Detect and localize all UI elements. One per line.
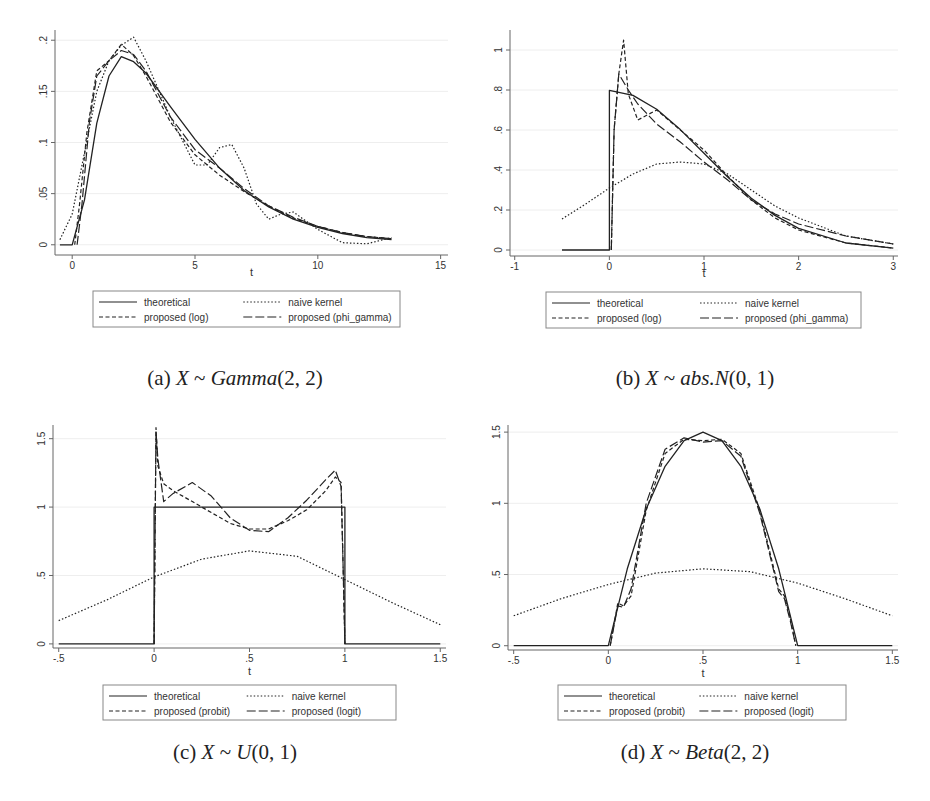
legend: theoreticalnaive kernelproposed (probit)… [558, 685, 846, 720]
legend-label: proposed (probit) [154, 706, 230, 717]
chart-panel-d: 0.511.5-.50.511.5ttheoreticalnaive kerne… [491, 425, 900, 720]
legend-label: proposed (log) [597, 313, 661, 324]
legend-label: theoretical [144, 297, 190, 308]
caption-tilde: ~ [669, 740, 680, 764]
caption-tilde: ~ [664, 366, 675, 390]
caption-a: (a) X ~ Gamma(2, 2) [147, 366, 322, 391]
caption-c: (c) X ~ U(0, 1) [173, 740, 297, 765]
series-theoretical [60, 57, 392, 245]
x-tick-label: 1 [342, 653, 348, 664]
x-tick-label: 5 [192, 260, 198, 271]
y-tick-label: 1 [491, 500, 502, 506]
caption-dist: Gamma [211, 366, 278, 390]
x-tick-label: 0 [151, 653, 157, 664]
y-tick-label: .2 [493, 205, 504, 214]
caption-params: (0, 1) [729, 366, 775, 390]
caption-d: (d) X ~ Beta(2, 2) [621, 740, 769, 765]
y-tick-label: 0 [491, 643, 502, 649]
x-tick-label: 0 [607, 261, 613, 272]
chart-panel-c: 0.511.5-.50.511.5ttheoreticalnaive kerne… [36, 425, 448, 720]
series-proposed-probit- [154, 428, 345, 644]
y-tick-label: .1 [38, 138, 49, 147]
y-tick-label: .15 [38, 84, 49, 98]
y-tick-label: 1.5 [491, 425, 502, 439]
x-tick-label: -.5 [53, 653, 65, 664]
caption-label: (c) [173, 740, 196, 764]
series-naive-kernel [60, 37, 392, 244]
series-proposed-log- [611, 40, 893, 250]
caption-dist: U [236, 740, 251, 764]
caption-var: X [651, 740, 664, 764]
caption-var: X [176, 366, 189, 390]
x-tick-label: 0 [69, 260, 75, 271]
x-tick-label: .5 [245, 653, 254, 664]
caption-b: (b) X ~ abs.N(0, 1) [616, 366, 774, 391]
x-axis-label: t [702, 267, 705, 279]
series-proposed-log- [75, 44, 392, 245]
y-tick-label: .5 [36, 571, 47, 580]
series-proposed-phi-gamma- [77, 51, 391, 245]
caption-label: (a) [147, 366, 170, 390]
caption-dist: abs.N [680, 366, 728, 390]
y-tick-label: .6 [493, 125, 504, 134]
x-tick-label: .5 [699, 655, 708, 666]
caption-dist: Beta [685, 740, 723, 764]
x-tick-label: 2 [796, 261, 802, 272]
legend-label: naive kernel [292, 691, 346, 702]
x-tick-label: -1 [510, 261, 519, 272]
x-tick-label: 1 [795, 655, 801, 666]
chart-panel-b: 0.2.4.6.81-10123ttheoreticalnaive kernel… [493, 30, 898, 328]
x-axis-label: t [248, 665, 251, 677]
legend: theoreticalnaive kernelproposed (log)pro… [546, 292, 861, 328]
series-theoretical [514, 432, 893, 646]
series-proposed-phi-gamma- [611, 74, 893, 250]
legend-label: theoretical [597, 298, 643, 309]
legend-label: proposed (probit) [609, 706, 685, 717]
caption-params: (2, 2) [277, 366, 323, 390]
y-tick-label: .05 [38, 186, 49, 200]
caption-tilde: ~ [194, 366, 205, 390]
legend: theoreticalnaive kernelproposed (log)pro… [93, 291, 400, 327]
x-tick-label: 0 [606, 655, 612, 666]
x-axis-label: t [701, 667, 704, 679]
legend-label: naive kernel [745, 298, 799, 309]
x-tick-label: 3 [890, 261, 896, 272]
series-naive-kernel [59, 551, 441, 625]
legend-label: theoretical [609, 691, 655, 702]
y-tick-label: .4 [493, 165, 504, 174]
series-naive-kernel [514, 569, 893, 616]
caption-label: (d) [621, 740, 646, 764]
y-tick-label: .2 [38, 36, 49, 45]
y-tick-label: 1 [493, 47, 504, 53]
y-tick-label: .5 [491, 570, 502, 579]
x-axis-label: t [250, 266, 253, 278]
series-proposed-probit- [610, 439, 796, 646]
caption-var: X [646, 366, 659, 390]
x-tick-label: 15 [435, 260, 447, 271]
legend-label: proposed (logit) [292, 706, 361, 717]
y-tick-label: 0 [493, 247, 504, 253]
y-tick-label: 1.5 [36, 431, 47, 445]
chart-panel-a: 0.05.1.15.2051015ttheoreticalnaive kerne… [38, 30, 448, 327]
legend-label: proposed (phi_gamma) [288, 312, 391, 323]
series-proposed-logit- [154, 432, 345, 644]
legend: theoreticalnaive kernelproposed (probit)… [103, 685, 396, 720]
legend-label: naive kernel [288, 297, 342, 308]
legend-label: naive kernel [744, 691, 798, 702]
x-tick-label: 1.5 [433, 653, 447, 664]
y-tick-label: 0 [36, 641, 47, 647]
x-tick-label: -.5 [508, 655, 520, 666]
legend-label: proposed (phi_gamma) [745, 313, 848, 324]
caption-var: X [202, 740, 215, 764]
caption-tilde: ~ [220, 740, 231, 764]
legend-label: proposed (logit) [744, 706, 813, 717]
caption-params: (0, 1) [251, 740, 297, 764]
caption-label: (b) [616, 366, 641, 390]
legend-label: theoretical [154, 691, 200, 702]
x-tick-label: 1.5 [885, 655, 899, 666]
y-tick-label: 1 [36, 504, 47, 510]
x-tick-label: 10 [312, 260, 324, 271]
legend-label: proposed (log) [144, 312, 208, 323]
caption-params: (2, 2) [724, 740, 770, 764]
figure-canvas: 0.05.1.15.2051015ttheoreticalnaive kerne… [0, 0, 930, 801]
